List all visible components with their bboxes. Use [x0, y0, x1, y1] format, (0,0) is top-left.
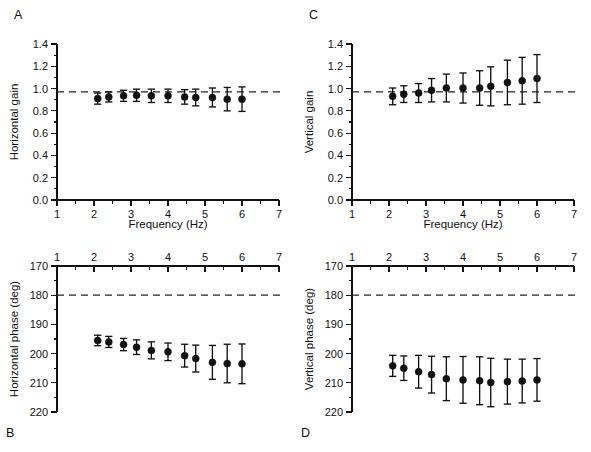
data-point-B-7	[192, 355, 199, 362]
data-point-C-8	[504, 79, 511, 86]
data-point-A-9	[224, 96, 231, 103]
x-tick-label-B-4: 5	[202, 251, 208, 263]
x-tick-label-D-4: 5	[497, 251, 503, 263]
data-point-A-0	[94, 95, 101, 102]
data-series-C	[389, 55, 540, 106]
y-tick-label-A-4: 0.8	[33, 105, 48, 117]
x-tick-label-B-1: 2	[91, 251, 97, 263]
y-tick-label-D-4: 210	[325, 377, 343, 389]
x-tick-label-A-6: 7	[276, 208, 282, 220]
y-tick-label-B-1: 180	[30, 289, 48, 301]
y-tick-label-C-0: 0.0	[328, 194, 343, 206]
plot-area-c: 0.00.20.40.60.81.01.21.41234567Vertical …	[295, 0, 591, 240]
data-point-C-0	[389, 93, 396, 100]
data-point-C-3	[428, 87, 435, 94]
y-tick-label-A-6: 1.2	[33, 60, 48, 72]
data-point-D-4	[443, 375, 450, 382]
y-axis-title-D: Vertical phase (deg)	[303, 288, 315, 390]
data-point-D-6	[476, 377, 483, 384]
x-axis-title-C: Frequency (Hz)	[423, 218, 502, 230]
x-tick-label-B-2: 3	[128, 251, 134, 263]
y-tick-label-A-1: 0.2	[33, 172, 48, 184]
y-tick-label-B-4: 210	[30, 377, 48, 389]
data-point-A-4	[148, 92, 155, 99]
data-series-B	[94, 335, 246, 383]
y-tick-label-C-3: 0.6	[328, 127, 343, 139]
data-point-C-1	[400, 91, 407, 98]
data-point-C-10	[534, 75, 541, 82]
x-axis-title-A: Frequency (Hz)	[128, 218, 207, 230]
x-tick-label-D-6: 7	[571, 251, 577, 263]
x-tick-label-C-5: 6	[534, 208, 540, 220]
x-tick-label-B-0: 1	[54, 251, 60, 263]
data-point-A-3	[133, 92, 140, 99]
data-point-C-7	[487, 83, 494, 90]
y-axis-title-C: Vertical gain	[303, 91, 315, 154]
y-tick-label-D-2: 190	[325, 318, 343, 330]
data-point-B-8	[209, 359, 216, 366]
x-tick-label-A-0: 1	[54, 208, 60, 220]
x-tick-label-C-6: 7	[571, 208, 577, 220]
y-tick-label-B-3: 200	[30, 348, 48, 360]
panel-c: C 0.00.20.40.60.81.01.21.41234567Vertica…	[295, 0, 591, 240]
data-point-C-5	[460, 85, 467, 92]
x-tick-label-D-3: 4	[460, 251, 466, 263]
x-tick-label-C-0: 1	[349, 208, 355, 220]
y-tick-label-A-0: 0.0	[33, 194, 48, 206]
data-point-D-8	[504, 378, 511, 385]
data-point-C-2	[415, 90, 422, 97]
data-point-A-2	[120, 92, 127, 99]
data-point-D-2	[415, 368, 422, 375]
y-tick-label-D-5: 220	[325, 406, 343, 418]
y-tick-label-A-2: 0.4	[33, 149, 48, 161]
y-axis-title-B: Horizontal phase (deg)	[8, 281, 20, 398]
x-tick-label-A-1: 2	[91, 208, 97, 220]
data-point-B-4	[148, 347, 155, 354]
data-point-D-3	[428, 371, 435, 378]
data-point-A-1	[105, 93, 112, 100]
plot-area-a: 0.00.20.40.60.81.01.21.41234567Horizonta…	[0, 0, 296, 240]
data-point-B-6	[181, 352, 188, 359]
y-tick-label-C-4: 0.8	[328, 105, 343, 117]
panel-d: D 1701801902002102201234567Vertical phas…	[295, 240, 591, 452]
data-point-B-5	[165, 348, 172, 355]
panel-b: B 1701801902002102201234567Horizontal ph…	[0, 240, 296, 452]
data-point-B-1	[105, 338, 112, 345]
y-axis-title-A: Horizontal gain	[8, 84, 20, 161]
x-tick-label-D-0: 1	[349, 251, 355, 263]
data-point-B-0	[94, 337, 101, 344]
y-tick-label-A-5: 1.0	[33, 83, 48, 95]
figure-panel-grid: A 0.00.20.40.60.81.01.21.41234567Horizon…	[0, 0, 591, 452]
data-point-B-3	[133, 344, 140, 351]
plot-area-d: 1701801902002102201234567Vertical phase …	[295, 240, 591, 452]
y-tick-label-B-5: 220	[30, 406, 48, 418]
y-tick-label-B-2: 190	[30, 318, 48, 330]
data-point-B-9	[224, 360, 231, 367]
y-tick-label-A-3: 0.6	[33, 127, 48, 139]
y-tick-label-C-2: 0.4	[328, 149, 343, 161]
y-tick-label-B-0: 170	[30, 260, 48, 272]
data-point-B-2	[120, 341, 127, 348]
y-tick-label-A-7: 1.4	[33, 38, 48, 50]
data-point-C-9	[519, 77, 526, 84]
data-point-D-1	[400, 365, 407, 372]
y-tick-label-C-1: 0.2	[328, 172, 343, 184]
y-tick-label-C-7: 1.4	[328, 38, 343, 50]
x-tick-label-B-6: 7	[276, 251, 282, 263]
y-tick-label-D-1: 180	[325, 289, 343, 301]
plot-area-b: 1701801902002102201234567Horizontal phas…	[0, 240, 296, 452]
y-tick-label-C-5: 1.0	[328, 83, 343, 95]
x-tick-label-D-5: 6	[534, 251, 540, 263]
data-point-A-10	[239, 96, 246, 103]
x-tick-label-D-1: 2	[386, 251, 392, 263]
data-point-D-10	[534, 376, 541, 383]
data-point-D-9	[519, 378, 526, 385]
panel-a: A 0.00.20.40.60.81.01.21.41234567Horizon…	[0, 0, 296, 240]
x-tick-label-D-2: 3	[423, 251, 429, 263]
data-point-C-4	[443, 85, 450, 92]
data-series-A	[94, 87, 246, 112]
data-point-A-5	[165, 92, 172, 99]
data-point-A-8	[209, 94, 216, 101]
data-point-C-6	[476, 85, 483, 92]
data-point-A-7	[192, 94, 199, 101]
